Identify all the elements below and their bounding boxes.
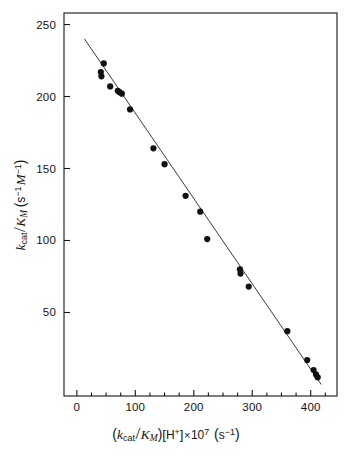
x-axis-ticks bbox=[77, 390, 325, 396]
data-point bbox=[182, 193, 188, 199]
y-unit-open-paren: ( bbox=[12, 203, 28, 208]
y-tick-label: 250 bbox=[26, 19, 56, 31]
data-point bbox=[284, 328, 290, 334]
data-point bbox=[197, 209, 203, 215]
data-point bbox=[119, 91, 125, 97]
y-unit-seconds-exponent: −1 bbox=[13, 186, 23, 196]
x-axis-title: (kcat/KM)[H+]×107 (s−1) bbox=[112, 424, 239, 444]
x-times-symbol: × bbox=[183, 429, 190, 441]
x-tick-label: 300 bbox=[242, 401, 262, 413]
axes-box bbox=[64, 13, 337, 396]
x-unit-close-paren: ) bbox=[235, 426, 240, 442]
x-ten-base: 10 bbox=[191, 428, 204, 442]
kinetics-scatter-figure: 50100150200250 0100200300400 kcat/KM (s−… bbox=[0, 0, 353, 456]
data-point bbox=[98, 73, 104, 79]
y-k-subscript: cat bbox=[19, 232, 29, 244]
y-unit-molar-exponent: −1 bbox=[13, 164, 23, 174]
data-point bbox=[150, 145, 156, 151]
y-unit-close-paren: ) bbox=[12, 160, 28, 165]
data-point bbox=[161, 161, 167, 167]
y-K-subscript: M bbox=[19, 210, 29, 218]
data-point bbox=[204, 236, 210, 242]
y-unit-molar: M bbox=[13, 175, 28, 186]
plot-canvas bbox=[0, 0, 353, 456]
y-tick-label: 100 bbox=[26, 234, 56, 246]
y-tick-label: 50 bbox=[26, 306, 56, 318]
data-point bbox=[107, 83, 113, 89]
y-unit-seconds: s bbox=[14, 197, 28, 203]
y-axis-title: kcat/KM (s−1 M−1) bbox=[10, 160, 30, 251]
data-point bbox=[304, 357, 310, 363]
y-tick-label: 150 bbox=[26, 163, 56, 175]
y-k-symbol: k bbox=[13, 244, 28, 250]
y-axis-ticks bbox=[64, 25, 70, 313]
y-K-symbol: K bbox=[13, 218, 28, 227]
x-tick-label: 400 bbox=[301, 401, 321, 413]
y-slash: / bbox=[10, 227, 29, 233]
data-point bbox=[127, 106, 133, 112]
x-tick-label: 200 bbox=[184, 401, 204, 413]
x-k-subscript: cat bbox=[123, 433, 135, 443]
y-tick-label: 200 bbox=[26, 91, 56, 103]
data-point bbox=[315, 374, 321, 380]
x-unit-seconds-exponent: −1 bbox=[225, 427, 235, 437]
data-point bbox=[246, 283, 252, 289]
data-point bbox=[237, 271, 243, 277]
x-tick-label: 100 bbox=[125, 401, 145, 413]
data-point bbox=[101, 60, 107, 66]
axes-frame bbox=[64, 13, 337, 396]
x-tick-label: 0 bbox=[74, 401, 81, 413]
